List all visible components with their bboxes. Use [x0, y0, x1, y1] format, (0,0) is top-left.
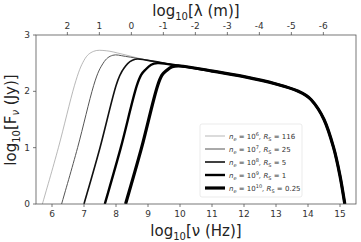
top-tick-label: -3 — [223, 21, 232, 31]
top-tick-label: -1 — [159, 21, 168, 31]
x-tick-label: 11 — [206, 209, 217, 219]
y-tick-label: 0 — [24, 199, 30, 209]
top-tick-label: 0 — [128, 21, 134, 31]
y-tick-label: 1 — [24, 143, 30, 153]
top-tick-label: -4 — [255, 21, 264, 31]
x-tick-label: 9 — [145, 209, 151, 219]
x-tick-label: 7 — [81, 209, 87, 219]
legend-entry-label: ne = 107, RS = 25 — [229, 144, 291, 155]
top-tick-label: -6 — [319, 21, 328, 31]
top-tick-label: 1 — [96, 21, 102, 31]
top-axis-ticks: 210-1-2-3-4-5-6 — [64, 21, 328, 35]
x-tick-label: 8 — [113, 209, 119, 219]
x-axis-title: log10[ν (Hz)] — [150, 222, 241, 242]
x-axis-ticks: 6789101112131415 — [49, 204, 346, 219]
x-tick-label: 6 — [49, 209, 55, 219]
legend-entry-label: ne = 106, RS = 116 — [229, 131, 296, 142]
top-tick-label: 2 — [64, 21, 70, 31]
x-tick-label: 13 — [270, 209, 281, 219]
top-tick-label: -5 — [287, 21, 296, 31]
top-tick-label: -2 — [191, 21, 200, 31]
x-tick-label: 12 — [238, 209, 249, 219]
x-tick-label: 10 — [174, 209, 186, 219]
sed-chart: 6789101112131415 0123 210-1-2-3-4-5-6 lo… — [0, 0, 361, 242]
y-axis-ticks: 0123 — [24, 30, 36, 209]
y-tick-label: 2 — [24, 86, 30, 96]
y-axis-title: log10[Fν (Jy)] — [2, 74, 22, 165]
legend: ne = 106, RS = 116ne = 107, RS = 25ne = … — [200, 124, 302, 197]
top-axis-title: log10[λ (m)] — [152, 2, 239, 22]
legend-entry-label: ne = 1010, RS = 0.25 — [229, 183, 301, 194]
x-tick-label: 14 — [302, 209, 314, 219]
x-tick-label: 15 — [334, 209, 345, 219]
y-tick-label: 3 — [24, 30, 30, 40]
